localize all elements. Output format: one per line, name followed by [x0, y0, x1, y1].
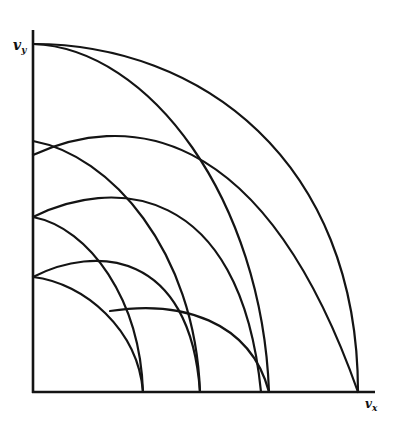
contour-curves [33, 44, 358, 392]
curve-outer-arc [33, 44, 358, 392]
curve-arc-217-to-261 [33, 198, 261, 392]
curve-arc-277-to-143 [33, 277, 143, 392]
diagram-canvas [0, 0, 398, 425]
y-axis-label: vy [13, 38, 26, 55]
x-axis-label-sub: x [372, 403, 377, 413]
curve-arc-top-to-269 [33, 44, 269, 392]
y-axis-label-sub: y [21, 45, 26, 55]
x-axis-label: vx [365, 398, 377, 413]
y-axis-label-main: v [13, 37, 21, 53]
x-axis-label-main: v [365, 397, 372, 411]
curve-arc-217-to-143 [33, 217, 143, 392]
